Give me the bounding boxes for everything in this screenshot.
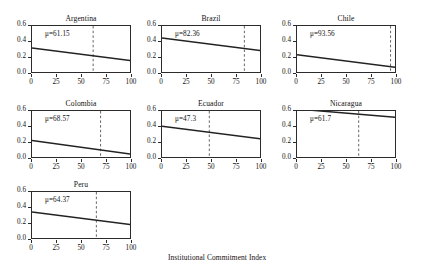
mu-annotation: μ=82.36 [175,30,200,38]
x-tick-mark [31,240,32,243]
x-tick-label: 25 [174,78,198,86]
x-tick-label: 75 [94,163,118,171]
y-tick-label: 0.4 [7,36,26,44]
panel-title: Nicaragua [296,99,396,108]
x-tick-mark [131,74,132,77]
x-tick-mark [81,159,82,162]
y-tick-label: 0.0 [137,68,156,76]
y-tick-label: 0.4 [137,121,156,129]
y-tick-label: 0.4 [137,36,156,44]
x-tick-label: 75 [94,78,118,86]
mu-annotation: μ=93.56 [310,30,335,38]
y-tick-label: 0.6 [137,105,156,113]
y-tick-label: 0.6 [272,105,291,113]
y-tick-label: 0.2 [137,52,156,60]
y-tick-mark [158,57,161,58]
x-tick-mark [81,74,82,77]
x-tick-label: 100 [249,163,273,171]
y-tick-mark [158,142,161,143]
x-tick-mark [106,74,107,77]
panel-brazil: Brazilμ=82.360.00.20.40.60255075100 [137,14,261,90]
x-tick-mark [396,159,397,162]
x-tick-mark [321,159,322,162]
x-tick-label: 0 [19,78,43,86]
x-tick-mark [261,159,262,162]
panel-peru: Peruμ=64.370.00.20.40.60255075100 [7,180,131,256]
panel-chile: Chileμ=93.560.00.20.40.60255075100 [272,14,396,90]
fitted-line [32,48,131,61]
x-tick-label: 100 [249,78,273,86]
x-tick-label: 0 [284,78,308,86]
x-tick-label: 50 [69,244,93,252]
fitted-line [297,55,396,68]
fitted-line [32,141,131,155]
x-tick-mark [186,159,187,162]
x-tick-label: 75 [359,78,383,86]
mu-annotation: μ=61.7 [310,115,331,123]
fitted-line [162,126,261,139]
mu-annotation: μ=47.3 [175,115,196,123]
x-tick-mark [396,74,397,77]
y-tick-label: 0.0 [7,234,26,242]
panel-title: Argentina [31,14,131,23]
y-tick-label: 0.4 [7,202,26,210]
y-tick-label: 0.0 [137,153,156,161]
x-tick-mark [321,74,322,77]
fitted-line [162,38,261,51]
x-tick-label: 50 [69,163,93,171]
panel-ecuador: Ecuadorμ=47.30.00.20.40.60255075100 [137,99,261,175]
fitted-line [32,212,131,225]
y-tick-mark [28,57,31,58]
y-tick-mark [293,41,296,42]
x-tick-label: 25 [174,163,198,171]
x-tick-mark [56,240,57,243]
x-tick-label: 25 [44,78,68,86]
mu-annotation: μ=68.57 [45,115,70,123]
y-tick-mark [293,25,296,26]
y-tick-label: 0.0 [272,153,291,161]
y-tick-label: 0.2 [272,137,291,145]
panel-title: Brazil [161,14,261,23]
x-tick-mark [31,74,32,77]
y-tick-label: 0.6 [272,20,291,28]
x-tick-label: 75 [359,163,383,171]
y-tick-mark [28,25,31,26]
x-tick-label: 50 [69,78,93,86]
panel-nicaragua: Nicaraguaμ=61.70.00.20.40.60255075100 [272,99,396,175]
x-tick-mark [261,74,262,77]
x-tick-mark [131,240,132,243]
x-tick-mark [31,159,32,162]
x-tick-label: 0 [149,163,173,171]
y-tick-mark [28,223,31,224]
y-tick-label: 0.2 [272,52,291,60]
x-tick-mark [371,159,372,162]
figure-panel-grid: Reliance on executive decrees Institutio… [0,0,428,269]
x-tick-label: 0 [19,163,43,171]
y-tick-mark [158,110,161,111]
x-axis-label: Institutional Commitment Index [168,253,266,262]
x-tick-mark [186,74,187,77]
x-tick-label: 25 [309,78,333,86]
y-tick-label: 0.0 [272,68,291,76]
x-tick-mark [371,74,372,77]
mu-annotation: μ=61.15 [45,30,70,38]
x-tick-mark [236,159,237,162]
x-tick-mark [211,74,212,77]
x-tick-label: 0 [19,244,43,252]
x-tick-mark [106,240,107,243]
x-tick-label: 100 [384,78,408,86]
x-tick-label: 25 [44,163,68,171]
x-tick-mark [161,74,162,77]
y-tick-mark [158,126,161,127]
y-tick-label: 0.6 [7,105,26,113]
y-tick-mark [293,126,296,127]
x-tick-mark [56,159,57,162]
y-tick-label: 0.4 [272,36,291,44]
y-tick-label: 0.2 [137,137,156,145]
x-tick-mark [296,159,297,162]
y-tick-label: 0.6 [7,20,26,28]
y-tick-label: 0.4 [272,121,291,129]
mu-annotation: μ=64.37 [45,196,70,204]
x-tick-label: 75 [224,163,248,171]
panel-title: Chile [296,14,396,23]
